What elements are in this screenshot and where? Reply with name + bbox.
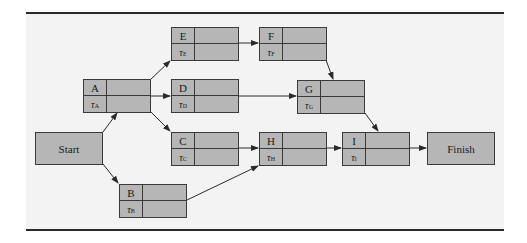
edge-g-i: [365, 113, 378, 131]
early-start-cell: [283, 133, 326, 149]
activity-node-b: B τB: [119, 184, 187, 218]
activity-node-e: E τE: [171, 27, 239, 61]
early-finish-cell: [366, 149, 409, 165]
activity-duration: τB: [120, 201, 143, 217]
edge-a-e: [151, 61, 170, 79]
finish-node: Finish: [427, 132, 495, 165]
early-finish-cell: [143, 201, 186, 217]
edge-start-a: [103, 113, 117, 132]
activity-duration: τE: [172, 44, 195, 60]
activity-name: C: [172, 133, 195, 149]
activity-node-g: G τG: [297, 80, 365, 114]
activity-name: H: [260, 133, 283, 149]
early-start-cell: [195, 133, 238, 149]
activity-node-f: F τF: [259, 27, 327, 61]
early-start-cell: [366, 133, 409, 149]
activity-node-a: A τA: [83, 79, 151, 113]
early-start-cell: [107, 80, 150, 96]
activity-name: I: [343, 133, 366, 149]
edge-a-c: [151, 112, 170, 131]
early-finish-cell: [283, 149, 326, 165]
early-start-cell: [195, 28, 238, 44]
early-finish-cell: [321, 97, 364, 113]
edge-b-h: [187, 166, 258, 200]
activity-name: A: [84, 80, 107, 96]
edge-f-g: [326, 60, 333, 79]
activity-duration: τH: [260, 149, 283, 165]
activity-duration: τG: [298, 97, 321, 113]
activity-node-i: I τI: [342, 132, 410, 166]
activity-duration: τA: [84, 96, 107, 112]
activity-duration: τI: [343, 149, 366, 165]
early-start-cell: [321, 81, 364, 97]
activity-name: D: [172, 80, 195, 96]
early-start-cell: [143, 185, 186, 201]
activity-duration: τD: [172, 96, 195, 112]
activity-duration: τC: [172, 149, 195, 165]
start-label: Start: [59, 143, 80, 155]
early-start-cell: [283, 28, 326, 44]
early-finish-cell: [107, 96, 150, 112]
early-finish-cell: [195, 44, 238, 60]
start-node: Start: [35, 132, 103, 165]
activity-name: E: [172, 28, 195, 44]
activity-node-c: C τC: [171, 132, 239, 166]
early-finish-cell: [195, 149, 238, 165]
early-finish-cell: [283, 44, 326, 60]
activity-name: G: [298, 81, 321, 97]
activity-name: B: [120, 185, 143, 201]
activity-name: F: [260, 28, 283, 44]
edge-start-b: [103, 164, 118, 183]
finish-label: Finish: [447, 143, 475, 155]
early-start-cell: [195, 80, 238, 96]
activity-duration: τF: [260, 44, 283, 60]
activity-node-h: H τH: [259, 132, 327, 166]
early-finish-cell: [195, 96, 238, 112]
activity-node-d: D τD: [171, 79, 239, 113]
